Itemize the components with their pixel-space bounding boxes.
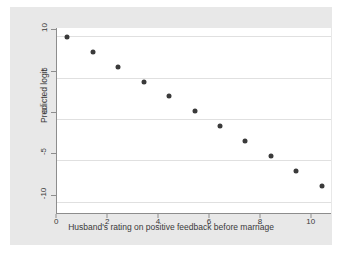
plot-area <box>56 28 331 214</box>
y-tick-label: -10 <box>34 189 54 198</box>
data-point <box>141 79 146 84</box>
y-tick-label: 10 <box>34 23 54 32</box>
plot-inner <box>57 28 331 213</box>
data-point <box>268 154 273 159</box>
gridline-y <box>57 78 331 79</box>
gridline-y <box>57 119 331 120</box>
graph-region: 1050-5-10 0246810 Predicted logit <box>10 7 332 245</box>
gridline-y <box>57 202 331 203</box>
data-point <box>192 109 197 114</box>
data-point <box>243 139 248 144</box>
data-point <box>90 49 95 54</box>
y-axis-title: Predicted logit <box>39 56 49 136</box>
y-tick-label: -5 <box>34 147 54 156</box>
data-point <box>319 183 324 188</box>
data-point <box>294 169 299 174</box>
x-axis-title: Husband's rating on positive feedback be… <box>0 222 342 232</box>
data-point <box>217 124 222 129</box>
data-point <box>116 64 121 69</box>
gridline-y <box>57 36 331 37</box>
gridline-y <box>57 160 331 161</box>
data-point <box>167 93 172 98</box>
data-point <box>65 35 70 40</box>
chart-figure: 1050-5-10 0246810 Predicted logit Husban… <box>0 0 342 257</box>
